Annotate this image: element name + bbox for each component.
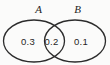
venn-svg: A B 0.3 0.2 0.1 — [0, 0, 110, 65]
set-a-label: A — [34, 3, 42, 15]
set-b-label: B — [74, 3, 81, 15]
set-b-only-value: 0.1 — [74, 36, 88, 47]
intersection-value: 0.2 — [45, 36, 59, 47]
set-a-only-value: 0.3 — [21, 36, 35, 47]
venn-diagram: A B 0.3 0.2 0.1 — [0, 0, 110, 65]
